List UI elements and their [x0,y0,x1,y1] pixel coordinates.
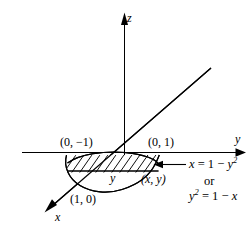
point-label-x-y: (x, y) [141,173,166,185]
y-axis-label: y [235,133,240,145]
point-label-one-zero: (1, 0) [70,193,96,205]
equation-connector: or [204,175,214,188]
z-axis [121,13,128,159]
equation-x-form: x = 1 − y2 [189,158,237,171]
point-label-zero-minus-one: (0, −1) [60,136,93,148]
x-axis-label: x [55,211,60,223]
point-label-zero-one: (0, 1) [148,136,174,148]
math-diagram-figure: z y x (0, −1) (0, 1) (1, 0) (x, y) y x =… [0,0,251,230]
z-axis-label: z [127,12,132,24]
equation-pointer-arrow [154,161,187,168]
region-inner-label: y [110,172,115,184]
equation-y-form: y2 = 1 − x [189,190,237,203]
